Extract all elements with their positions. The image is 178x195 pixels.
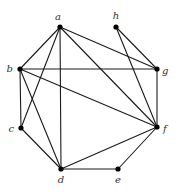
- vertex-label-a: a: [55, 11, 61, 22]
- vertex-b: [17, 66, 22, 71]
- vertex-e: [115, 166, 120, 171]
- edge-a-f: [60, 27, 157, 127]
- edge-a-d: [60, 27, 61, 169]
- vertex-label-f: f: [162, 123, 169, 134]
- vertex-label-b: b: [7, 63, 13, 74]
- edge-e-f: [118, 127, 157, 169]
- edge-b-c: [20, 69, 21, 128]
- vertex-f: [154, 124, 159, 129]
- vertex-label-g: g: [162, 65, 168, 76]
- vertex-a: [57, 24, 62, 29]
- edge-g-h: [116, 27, 157, 69]
- vertex-label-e: e: [115, 174, 121, 185]
- vertex-label-c: c: [8, 123, 14, 134]
- vertex-label-d: d: [58, 174, 64, 185]
- vertex-h: [113, 24, 118, 29]
- edge-c-d: [21, 128, 61, 169]
- vertex-d: [58, 166, 63, 171]
- graph-diagram: ahbgcfde: [0, 0, 178, 195]
- edge-d-f: [61, 127, 157, 169]
- vertex-g: [154, 66, 159, 71]
- vertex-c: [18, 125, 23, 130]
- vertex-label-h: h: [113, 10, 119, 21]
- edge-a-b: [20, 27, 60, 69]
- edge-a-g: [60, 27, 157, 69]
- edge-layer: [20, 27, 157, 169]
